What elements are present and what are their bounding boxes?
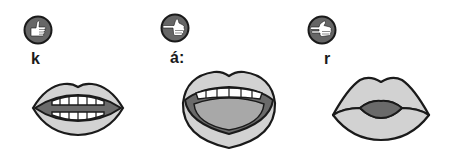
phoneme-label: k (31, 51, 40, 67)
phoneme-card-r: r (300, 0, 452, 160)
phoneme-card-k: k (0, 0, 150, 160)
phoneme-label: r (324, 51, 330, 67)
pointing-hand-icon (160, 13, 190, 43)
phoneme-label: á: (170, 50, 184, 66)
two-finger-hand-icon (307, 15, 337, 45)
mouth-slightly-open-teeth-icon (30, 78, 126, 138)
phoneme-card-a-long: á: (150, 0, 300, 160)
mouth-closed-lips-icon (330, 74, 432, 142)
thumb-up-hand-icon (23, 15, 53, 45)
mouth-wide-open-icon (180, 68, 278, 152)
